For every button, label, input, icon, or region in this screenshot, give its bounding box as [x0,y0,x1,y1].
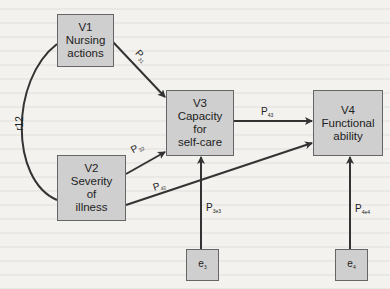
node-v2-label-line2: of [87,188,97,201]
label-r12: r12 [14,116,25,130]
label-p4e4: P4e4 [355,203,370,215]
node-e3-error-term: e3 [186,249,219,281]
node-v1-nursing-actions: V1 Nursing actions [57,14,114,67]
node-v2-label-line1: Severity [71,175,113,188]
node-e4-label: e4 [347,257,355,274]
node-v2-id: V2 [84,162,98,175]
node-v3-label-line3: self-care [178,136,222,149]
node-v4-id: V4 [341,104,355,117]
node-v4-functional-ability: V4 Functional ability [313,90,383,156]
label-p3e3: P3e3 [206,202,221,214]
node-v1-label-line2: actions [67,47,103,60]
node-v2-severity-of-illness: V2 Severity of illness [57,155,126,221]
node-v1-id: V1 [78,21,92,34]
p32-arrow [126,152,165,174]
node-v3-capacity-for-self-care: V3 Capacity for self-care [166,90,234,156]
node-v3-id: V3 [193,97,207,110]
r12-curve [22,44,57,200]
node-v2-label-line3: illness [76,201,108,214]
node-e3-label: e3 [198,257,206,274]
node-v4-label-line1: Functional [321,117,374,130]
node-v4-label-line2: ability [333,130,362,143]
node-v3-label-line2: for [193,123,206,136]
node-v1-label-line1: Nursing [66,34,106,47]
node-e4-error-term: e4 [335,249,368,281]
node-v3-label-line1: Capacity [178,110,223,123]
label-p43: P43 [261,106,273,118]
